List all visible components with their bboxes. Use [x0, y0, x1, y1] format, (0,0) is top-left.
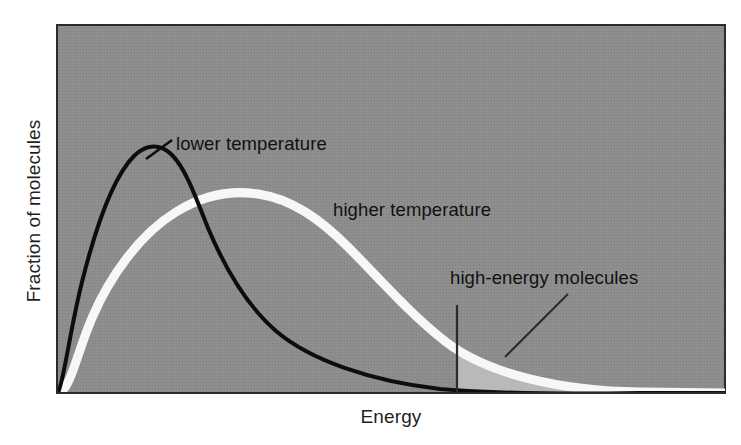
- chart-canvas: [0, 0, 741, 445]
- high-energy-molecules-label: high-energy molecules: [450, 267, 638, 289]
- lower-temperature-label: lower temperature: [176, 133, 327, 155]
- higher-temperature-label: higher temperature: [333, 199, 491, 221]
- chart-figure: Fraction of molecules: [0, 0, 741, 445]
- x-axis-title: Energy: [57, 406, 725, 428]
